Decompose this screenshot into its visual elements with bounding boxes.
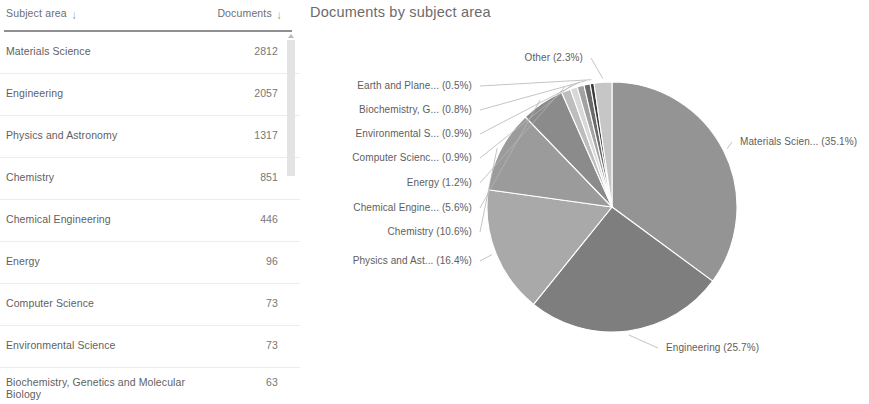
table-scrollbar[interactable] [287, 34, 295, 176]
table-cell-documents: 73 [266, 339, 278, 351]
table-cell-documents: 73 [266, 297, 278, 309]
table-header-row: Subject area↓ Documents↓ [0, 0, 300, 30]
table-row[interactable]: Chemical Engineering 446 [0, 200, 300, 242]
table-cell-documents: 1317 [254, 129, 278, 141]
table-row[interactable]: Chemistry 851 [0, 158, 300, 200]
table-cell-documents: 851 [260, 171, 278, 183]
table-cell-subject: Materials Science [6, 45, 206, 57]
table-row[interactable]: Environmental Science 73 [0, 326, 300, 368]
scroll-up-arrow-icon[interactable] [288, 34, 294, 38]
table-body: Materials Science 2812 Engineering 2057 … [0, 32, 300, 404]
table-row[interactable]: Computer Science 73 [0, 284, 300, 326]
pie-leader-line [727, 142, 732, 149]
pie-slice-label: Environmental S... (0.9%) [356, 128, 472, 139]
table-cell-documents: 96 [266, 255, 278, 267]
pie-chart-panel: Documents by subject area Materials Scie… [300, 0, 869, 386]
pie-slice-label: Chemical Engine... (5.6%) [353, 202, 472, 213]
pie-slice-label: Chemistry (10.6%) [388, 226, 473, 237]
table-cell-documents: 446 [260, 213, 278, 225]
table-row[interactable]: Energy 96 [0, 242, 300, 284]
pie-slices [487, 82, 737, 332]
table-row[interactable]: Biochemistry, Genetics and Molecular Bio… [0, 368, 300, 404]
pie-slice-label: Physics and Ast... (16.4%) [353, 255, 472, 266]
table-cell-subject: Chemistry [6, 171, 206, 183]
sort-descending-arrow-icon[interactable]: ↓ [277, 8, 282, 21]
pie-leader-line [629, 335, 658, 348]
pie-slice-label: Computer Scienc... (0.9%) [352, 152, 472, 163]
table-row[interactable]: Materials Science 2812 [0, 32, 300, 74]
pie-slice-label: Energy (1.2%) [407, 177, 472, 188]
sort-descending-arrow-icon[interactable]: ↓ [72, 8, 77, 21]
table-cell-subject: Energy [6, 255, 206, 267]
table-cell-documents: 2812 [254, 45, 278, 57]
table-cell-subject: Chemical Engineering [6, 213, 206, 225]
pie-slice-label: Other (2.3%) [525, 52, 583, 63]
table-cell-subject: Environmental Science [6, 339, 206, 351]
table-cell-subject: Biochemistry, Genetics and Molecular Bio… [6, 376, 206, 400]
table-cell-subject: Physics and Astronomy [6, 129, 206, 141]
table-row[interactable]: Engineering 2057 [0, 74, 300, 116]
column-header-subject-area[interactable]: Subject area↓ [6, 7, 77, 19]
column-header-documents[interactable]: Documents↓ [217, 7, 282, 19]
pie-slice-label: Biochemistry, G... (0.8%) [359, 104, 472, 115]
table-cell-documents: 2057 [254, 87, 278, 99]
documents-by-subject-area-pie-chart: Materials Scien... (35.1%)Engineering (2… [300, 0, 869, 386]
column-header-subject-area-label: Subject area [6, 7, 67, 19]
scrollbar-thumb[interactable] [287, 40, 295, 176]
table-cell-subject: Engineering [6, 87, 206, 99]
subject-area-table: Subject area↓ Documents↓ Materials Scien… [0, 0, 300, 386]
pie-slice-label: Earth and Plane... (0.5%) [357, 80, 472, 91]
table-cell-subject: Computer Science [6, 297, 206, 309]
pie-slice-label: Engineering (25.7%) [666, 342, 759, 353]
column-header-documents-label: Documents [217, 7, 271, 19]
pie-slice-label: Materials Scien... (35.1%) [740, 136, 857, 147]
pie-leader-line [591, 58, 603, 78]
table-row[interactable]: Physics and Astronomy 1317 [0, 116, 300, 158]
pie-leader-line [480, 255, 492, 262]
table-cell-documents: 63 [266, 376, 278, 388]
